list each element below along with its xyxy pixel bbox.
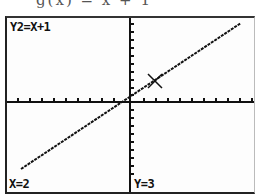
graph-plot: [7, 18, 254, 192]
trace-y-value: Y=3: [134, 178, 154, 190]
trace-x-value: X=2: [9, 178, 29, 190]
cut-off-heading: g(x) = x + 1: [36, 0, 152, 9]
trace-cursor-icon: [148, 74, 162, 88]
graph-screen: Y2=X+1 X=2 Y=3: [5, 16, 255, 194]
equation-label: Y2=X+1: [10, 21, 50, 33]
